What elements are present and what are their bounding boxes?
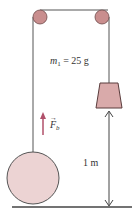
hanging-weight <box>96 83 122 108</box>
force-arrowhead-icon <box>40 112 46 119</box>
right-pulley <box>95 10 109 24</box>
left-pulley <box>33 10 47 24</box>
physics-diagram: m1 = 25 g Fb → 1 m <box>0 0 136 220</box>
mass-label: m1 = 25 g <box>50 55 89 68</box>
balloon <box>7 152 59 204</box>
vector-arrow-mark: → <box>50 114 57 122</box>
height-label: 1 m <box>83 157 99 168</box>
